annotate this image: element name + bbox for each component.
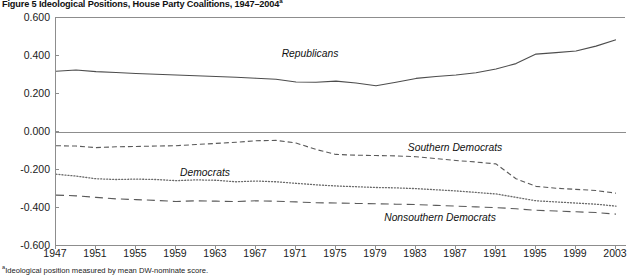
chart-svg [56, 18, 626, 246]
y-axis-tick [55, 93, 59, 94]
x-axis-tick [455, 245, 456, 249]
series-line-nonsouthern-democrats [56, 195, 616, 214]
figure-title-superscript: a [279, 0, 282, 4]
x-axis-tick [135, 245, 136, 249]
series-line-democrats [56, 174, 616, 206]
y-axis-tick [55, 207, 59, 208]
series-label-southern-democrats: Southern Democrats [408, 141, 502, 152]
x-axis-tick [575, 245, 576, 249]
y-axis: 0.6000.4000.2000.000-0.200-0.400-0.600 [0, 0, 50, 279]
x-axis-tick [415, 245, 416, 249]
y-axis-tick [55, 55, 59, 56]
x-axis-tick [55, 245, 56, 249]
series-line-republicans [56, 40, 616, 86]
x-axis-tick [535, 245, 536, 249]
y-axis-tick [55, 17, 59, 18]
y-axis-tick [55, 131, 59, 132]
x-axis-tick [495, 245, 496, 249]
y-axis-tick [55, 169, 59, 170]
x-axis-tick [95, 245, 96, 249]
x-axis-tick [335, 245, 336, 249]
x-axis-tick [295, 245, 296, 249]
y-axis-label: -0.200 [2, 163, 50, 175]
series-line-southern-democrats [56, 140, 616, 193]
y-axis-label: -0.400 [2, 201, 50, 213]
y-axis-label: 0.000 [2, 125, 50, 137]
x-axis-tick [175, 245, 176, 249]
series-label-democrats: Democrats [180, 166, 230, 177]
plot-area [55, 17, 625, 245]
figure-container: Figure 5 Ideological Positions, House Pa… [0, 0, 631, 279]
figure-footnote: aIdeological position measured by mean D… [2, 264, 208, 275]
x-axis-tick [255, 245, 256, 249]
y-axis-label: 0.600 [2, 11, 50, 23]
x-axis-tick [615, 245, 616, 249]
series-label-republicans: Republicans [282, 48, 339, 59]
footnote-text: Ideological position measured by mean DW… [5, 266, 208, 275]
series-label-nonsouthern-democrats: Nonsouthern Democrats [384, 212, 496, 223]
y-axis-label: 0.400 [2, 49, 50, 61]
x-axis-tick [375, 245, 376, 249]
x-axis-tick [215, 245, 216, 249]
y-axis-label: 0.200 [2, 87, 50, 99]
